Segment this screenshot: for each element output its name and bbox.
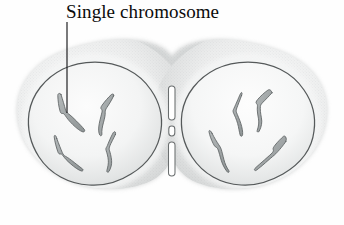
single-chromosome-label: Single chromosome [66,1,219,22]
cleavage-furrow-midbody [169,86,176,176]
left-nucleus [28,62,161,185]
furrow-segment-bottom [169,142,176,176]
left-daughter-cell [28,62,161,185]
left-nuclear-envelope [28,62,161,185]
cell-division-diagram [0,0,344,225]
furrow-segment-middle [169,126,175,136]
diagram-canvas [0,0,344,225]
furrow-segment-top [169,86,176,120]
